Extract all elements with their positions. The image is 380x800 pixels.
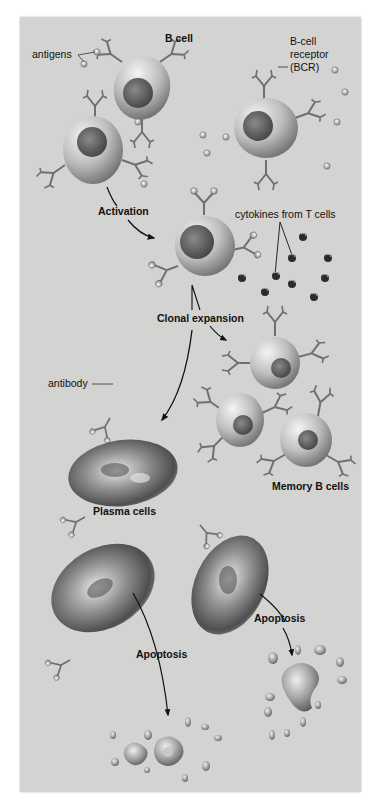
activation-arrow — [128, 220, 154, 238]
label-clonal-expansion: Clonal expansion — [157, 312, 244, 324]
b-cell-diagram: B cell antigens B-cell receptor (BCR) Ac… — [0, 0, 380, 800]
antigens-pointer — [78, 52, 95, 62]
memory-b-cell-2 — [191, 383, 295, 466]
label-bcr-1: B-cell — [290, 35, 316, 47]
cytokines-pointer — [275, 222, 292, 275]
label-bcr-3: (BCR) — [290, 61, 319, 73]
label-activation: Activation — [98, 205, 149, 217]
label-b-cell: B cell — [165, 32, 193, 44]
label-cytokines: cytokines from T cells — [235, 208, 336, 220]
label-antigens: antigens — [32, 48, 72, 60]
memory-b-cell-3 — [254, 384, 358, 480]
label-apoptosis-left: Apoptosis — [136, 648, 187, 660]
b-cell-right — [234, 70, 327, 190]
clonal-expansion-arrow-memory — [210, 326, 226, 340]
apoptosis-arrow-right — [283, 628, 292, 655]
label-apoptosis-right: Apoptosis — [254, 612, 305, 624]
label-plasma-cells: Plasma cells — [93, 505, 156, 517]
apoptotic-debris-left — [110, 717, 222, 782]
clonal-expansion-arrow-plasma — [162, 330, 192, 420]
b-cell-activated — [148, 188, 262, 288]
label-antibody: antibody — [48, 377, 88, 389]
apoptotic-debris-right — [264, 645, 347, 740]
label-bcr-2: receptor — [290, 48, 329, 60]
plasma-cell-3 — [176, 523, 283, 647]
cytokines-group — [238, 233, 332, 301]
label-memory-b-cells: Memory B cells — [272, 480, 349, 492]
plasma-cell-1 — [64, 433, 182, 514]
